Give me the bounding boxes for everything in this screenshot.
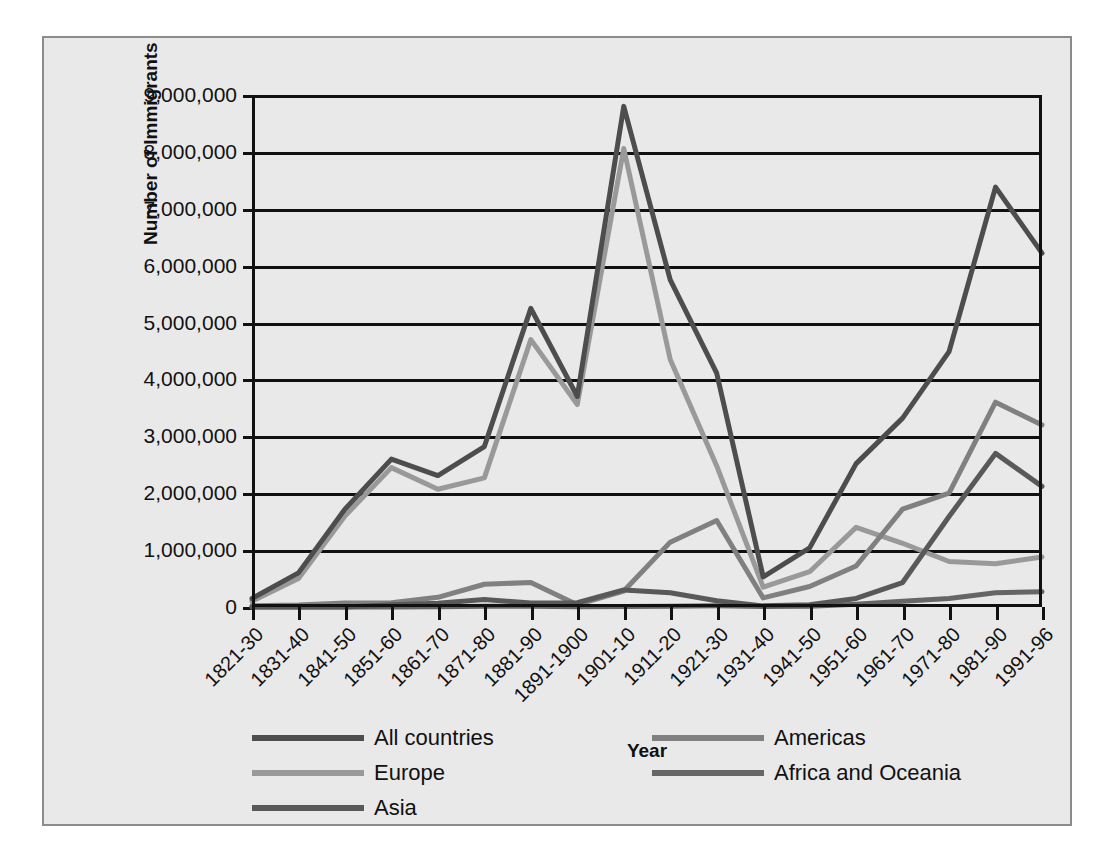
y-axis-tick-mark xyxy=(243,323,252,326)
y-axis-tick-label: 4,000,000 xyxy=(47,368,237,389)
x-axis-tick-mark xyxy=(717,607,720,620)
x-axis-tick-mark xyxy=(763,607,766,620)
chart-legend: All countriesEuropeAsia AmericasAfrica a… xyxy=(252,724,1052,821)
y-axis-tick-mark xyxy=(243,436,252,439)
x-axis-tick-mark xyxy=(1042,607,1045,620)
legend-swatch-icon xyxy=(252,735,364,741)
x-axis-tick-mark xyxy=(856,607,859,620)
legend-item: All countries xyxy=(252,724,652,751)
y-axis-tick-label: 2,000,000 xyxy=(47,482,237,503)
y-axis-tick-label: 3,000,000 xyxy=(47,425,237,446)
legend-label: Africa and Oceania xyxy=(774,760,961,786)
legend-label: Asia xyxy=(374,795,417,821)
x-axis-tick-mark xyxy=(438,607,441,620)
x-axis-tick-mark xyxy=(624,607,627,620)
x-axis-tick-mark xyxy=(252,607,255,620)
legend-column-left: All countriesEuropeAsia xyxy=(252,724,652,821)
x-axis-tick-mark xyxy=(391,607,394,620)
x-axis-tick-mark xyxy=(670,607,673,620)
y-axis-tick-mark xyxy=(243,379,252,382)
chart-page: Number of Immigrants 9,000,0008,000,0007… xyxy=(0,0,1114,862)
y-axis-tick-label: 7,000,000 xyxy=(47,198,237,219)
x-axis-tick-mark xyxy=(949,607,952,620)
y-axis-tick-mark xyxy=(243,209,252,212)
y-axis-tick-label: 8,000,000 xyxy=(47,141,237,162)
y-axis-tick-mark xyxy=(243,550,252,553)
y-axis-tick-mark xyxy=(243,152,252,155)
x-axis-tick-mark xyxy=(484,607,487,620)
y-axis-tick-label: 9,000,000 xyxy=(47,84,237,105)
y-axis-tick-mark xyxy=(243,493,252,496)
legend-swatch-icon xyxy=(652,770,764,776)
legend-swatch-icon xyxy=(652,735,764,741)
x-axis-tick-mark xyxy=(996,607,999,620)
x-axis-tick-mark xyxy=(345,607,348,620)
plot-area: Number of Immigrants 9,000,0008,000,0007… xyxy=(252,95,1042,607)
y-axis-tick-label: 1,000,000 xyxy=(47,539,237,560)
plot-frame xyxy=(252,95,1042,607)
x-axis-tick-mark xyxy=(810,607,813,620)
y-axis-tick-label: 0 xyxy=(47,596,237,617)
y-axis-tick-mark xyxy=(243,266,252,269)
x-axis-tick-mark xyxy=(903,607,906,620)
y-axis-tick-label: 5,000,000 xyxy=(47,312,237,333)
x-axis-tick-mark xyxy=(298,607,301,620)
legend-label: All countries xyxy=(374,725,494,751)
legend-label: Europe xyxy=(374,760,445,786)
x-axis-tick-mark xyxy=(531,607,534,620)
legend-item: Europe xyxy=(252,759,652,786)
y-axis-tick-label: 6,000,000 xyxy=(47,255,237,276)
legend-column-right: AmericasAfrica and Oceania xyxy=(652,724,1052,821)
legend-item: Americas xyxy=(652,724,1052,751)
legend-swatch-icon xyxy=(252,770,364,776)
legend-item: Asia xyxy=(252,794,652,821)
chart-panel: Number of Immigrants 9,000,0008,000,0007… xyxy=(42,36,1072,826)
legend-label: Americas xyxy=(774,725,866,751)
y-axis-tick-mark xyxy=(243,95,252,98)
legend-item: Africa and Oceania xyxy=(652,759,1052,786)
x-axis-tick-mark xyxy=(577,607,580,620)
legend-swatch-icon xyxy=(252,805,364,811)
